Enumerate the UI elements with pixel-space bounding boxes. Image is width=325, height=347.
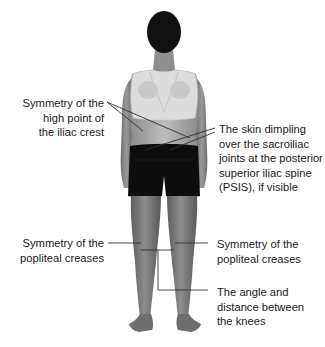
annotation-line: the iliac crest bbox=[8, 125, 104, 140]
annotation-line: Symmetry of the bbox=[4, 236, 104, 251]
annotation-line: joints at the posterior bbox=[219, 151, 323, 166]
annotation-line: high point of bbox=[8, 111, 104, 126]
annotation-line: popliteal creases bbox=[4, 251, 104, 266]
annotation-psis: The skin dimpling over the sacroiliac jo… bbox=[219, 122, 323, 195]
annotation-popliteal-left: Symmetry of the popliteal creases bbox=[4, 236, 104, 265]
annotation-line: over the sacroiliac bbox=[219, 137, 323, 152]
annotation-line: the knees bbox=[217, 314, 304, 329]
annotation-line: distance between bbox=[217, 300, 304, 315]
annotation-line: The angle and bbox=[217, 285, 304, 300]
legs bbox=[131, 196, 197, 318]
neck bbox=[153, 50, 175, 72]
annotation-iliac-crest: Symmetry of the high point of the iliac … bbox=[8, 96, 104, 140]
annotation-line: (PSIS), if visible bbox=[219, 180, 323, 195]
annotation-line: popliteal creases bbox=[217, 252, 301, 267]
annotation-knees: The angle and distance between the knees bbox=[217, 285, 304, 329]
annotation-popliteal-right: Symmetry of the popliteal creases bbox=[217, 237, 301, 266]
shorts bbox=[128, 144, 200, 198]
feet bbox=[129, 314, 201, 332]
annotation-line: superior iliac spine bbox=[219, 166, 323, 181]
head bbox=[147, 11, 181, 53]
annotation-line: Symmetry of the bbox=[217, 237, 301, 252]
annotation-line: Symmetry of the bbox=[8, 96, 104, 111]
annotation-line: The skin dimpling bbox=[219, 122, 323, 137]
